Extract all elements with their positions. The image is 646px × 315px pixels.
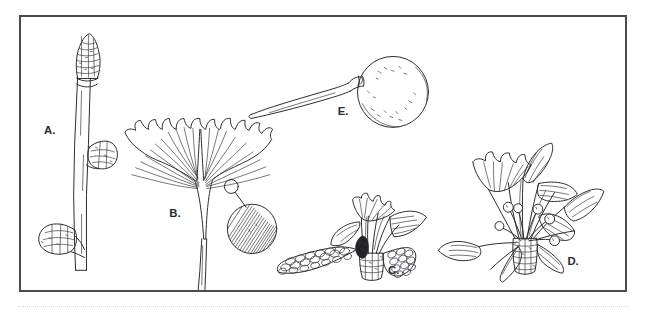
figure-label-c: C. — [388, 264, 399, 276]
pollen-catkin-left — [277, 245, 356, 275]
panel-a-twig — [39, 34, 118, 271]
panel-d-female-shoot — [438, 143, 604, 282]
figure-page: A. B. C. D. E. — [0, 0, 646, 315]
figure-frame: A. B. C. D. E. — [19, 15, 627, 292]
botanical-plate-drawing: A. B. C. D. E. — [21, 17, 625, 290]
venation-detail-circle — [217, 196, 286, 271]
figure-label-b: B. — [169, 207, 180, 219]
figure-label-a: A. — [44, 124, 55, 136]
bottom-separator-rule — [18, 306, 628, 308]
figure-label-e: E. — [338, 105, 349, 117]
caption-above-partial — [36, 0, 436, 3]
panel-c-male-shoot — [277, 193, 426, 280]
panel-e-seed — [249, 56, 429, 127]
figure-label-d: D. — [567, 255, 578, 267]
panel-b-leaf — [125, 118, 286, 290]
